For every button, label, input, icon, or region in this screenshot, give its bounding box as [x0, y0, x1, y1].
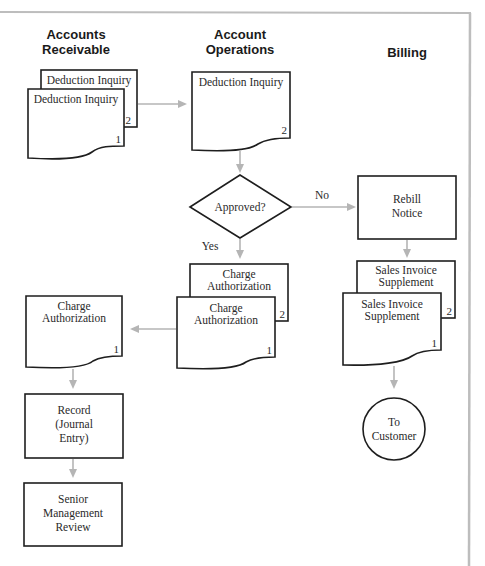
svg-text:1: 1 [116, 133, 122, 145]
svg-text:Customer: Customer [372, 430, 417, 442]
senior-management-review: Senior Management Review [24, 483, 122, 546]
ar-deduction-inquiry-copy-1: Deduction Inquiry 1 [28, 89, 124, 159]
svg-text:Supplement: Supplement [365, 310, 421, 323]
svg-text:Authorization: Authorization [42, 312, 106, 324]
to-customer-connector: To Customer [363, 398, 425, 460]
header-billing: Billing [387, 45, 427, 60]
no-label: No [315, 189, 329, 201]
svg-text:2: 2 [126, 114, 132, 126]
arrow-yes-to-charge [236, 239, 244, 259]
svg-text:Operations: Operations [206, 42, 275, 57]
svg-text:Management: Management [43, 507, 104, 520]
sales-invoice-supplement-copy-1: Sales Invoice Supplement 1 [343, 293, 441, 365]
svg-text:2: 2 [447, 305, 453, 317]
svg-text:Deduction Inquiry: Deduction Inquiry [47, 74, 132, 87]
decision-approved: Approved? [190, 175, 291, 238]
record-journal-entry: Record (Journal Entry) [25, 394, 123, 458]
svg-text:Account: Account [214, 27, 267, 42]
frame-right-border [469, 13, 470, 566]
svg-text:Accounts: Accounts [46, 27, 105, 42]
svg-text:Notice: Notice [392, 207, 423, 219]
arrow-to-decision [236, 151, 244, 173]
yes-label: Yes [202, 240, 219, 252]
arrow-no-to-rebill [292, 203, 356, 211]
svg-text:2: 2 [282, 124, 288, 136]
svg-text:Sales Invoice: Sales Invoice [361, 298, 423, 310]
ar-charge-authorization: Charge Authorization 1 [26, 296, 122, 368]
svg-text:Receivable: Receivable [42, 42, 110, 57]
svg-text:Record: Record [57, 404, 90, 416]
svg-text:Authorization: Authorization [207, 280, 271, 292]
svg-text:Review: Review [55, 521, 91, 533]
arrow-sis-to-customer [390, 366, 398, 389]
rebill-notice: Rebill Notice [358, 176, 456, 239]
svg-text:Deduction Inquiry: Deduction Inquiry [199, 76, 284, 89]
ao-deduction-inquiry: Deduction Inquiry 2 [192, 72, 290, 151]
arrow-charge-to-record [69, 369, 77, 389]
svg-text:Sales Invoice: Sales Invoice [375, 264, 437, 276]
svg-text:Senior: Senior [58, 493, 88, 505]
svg-text:1: 1 [267, 344, 273, 356]
arrow-record-to-senior [69, 459, 77, 478]
svg-text:To: To [388, 416, 400, 428]
svg-text:Approved?: Approved? [214, 201, 265, 214]
flowchart-canvas: Accounts Receivable Account Operations B… [0, 0, 485, 566]
svg-text:Authorization: Authorization [194, 314, 258, 326]
svg-text:(Journal: (Journal [55, 418, 93, 431]
arrow-ao-charge-to-ar [130, 325, 176, 333]
svg-text:1: 1 [432, 337, 438, 349]
arrow-ar-to-ao [138, 100, 187, 108]
header-accounts-receivable: Accounts Receivable [42, 27, 110, 57]
arrow-rebill-to-sis [403, 240, 411, 258]
svg-text:Entry): Entry) [59, 432, 89, 445]
svg-text:Deduction Inquiry: Deduction Inquiry [34, 93, 119, 106]
svg-text:2: 2 [280, 308, 286, 320]
ao-charge-authorization-copy-1: Charge Authorization 1 [177, 297, 275, 369]
svg-text:Supplement: Supplement [379, 276, 435, 289]
svg-text:1: 1 [114, 343, 120, 355]
header-account-operations: Account Operations [206, 27, 275, 57]
frame-top-border [0, 12, 471, 13]
svg-text:Rebill: Rebill [393, 193, 421, 205]
